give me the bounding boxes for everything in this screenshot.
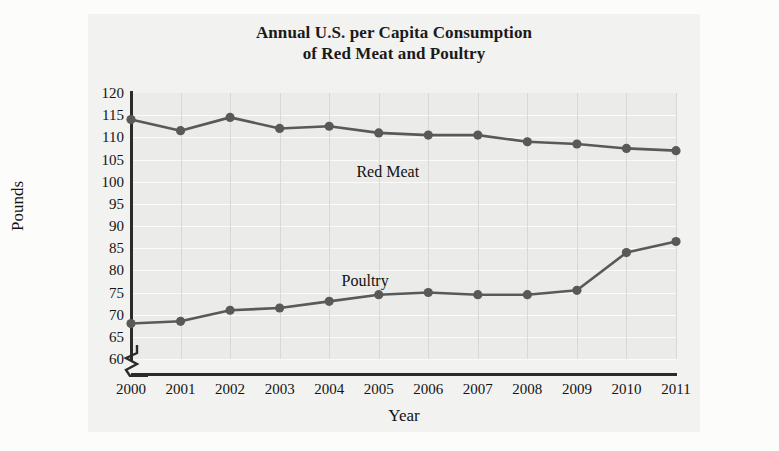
gridline-horizontal	[131, 137, 676, 138]
chart-page: Annual U.S. per Capita Consumption of Re…	[0, 0, 779, 451]
gridline-vertical	[181, 93, 182, 359]
gridline-horizontal	[131, 270, 676, 271]
gridline-horizontal	[131, 248, 676, 249]
x-tick-label: 2002	[203, 381, 257, 398]
gridline-vertical	[527, 93, 528, 359]
gridline-vertical	[379, 93, 380, 359]
gridline-horizontal	[131, 160, 676, 161]
gridline-horizontal	[131, 293, 676, 294]
gridline-horizontal	[131, 115, 676, 116]
gridline-vertical	[230, 93, 231, 359]
gridline-horizontal	[131, 337, 676, 338]
y-tick-label: 80	[84, 263, 124, 277]
gridline-horizontal	[131, 204, 676, 205]
x-tick-label: 2005	[352, 381, 406, 398]
gridline-horizontal	[131, 182, 676, 183]
y-axis-title: Pounds	[8, 146, 28, 266]
y-tick-label: 65	[84, 330, 124, 344]
chart-title: Annual U.S. per Capita Consumption of Re…	[88, 22, 700, 64]
x-tick-label: 2000	[104, 381, 158, 398]
gridline-vertical	[577, 93, 578, 359]
series-label-poultry: Poultry	[342, 272, 389, 290]
y-tick-label: 85	[84, 241, 124, 255]
gridline-horizontal	[131, 359, 676, 360]
chart-title-line2: of Red Meat and Poultry	[88, 43, 700, 64]
x-tick-label: 2009	[550, 381, 604, 398]
x-tick-label: 2007	[451, 381, 505, 398]
gridline-horizontal	[131, 315, 676, 316]
gridline-horizontal	[131, 226, 676, 227]
x-tick-label: 2008	[500, 381, 554, 398]
x-tick-label: 2010	[599, 381, 653, 398]
series-label-red-meat: Red Meat	[356, 163, 419, 181]
gridline-vertical	[428, 93, 429, 359]
y-tick-label: 115	[84, 108, 124, 122]
y-tick-label: 100	[84, 175, 124, 189]
x-tick-labels: 2000200120022003200420052006200720082009…	[0, 381, 779, 407]
gridline-vertical	[280, 93, 281, 359]
gridline-vertical	[478, 93, 479, 359]
y-tick-label: 90	[84, 219, 124, 233]
x-tick-label: 2004	[302, 381, 356, 398]
gridline-vertical	[676, 93, 677, 359]
x-axis-line	[131, 373, 677, 376]
gridline-vertical	[329, 93, 330, 359]
y-tick-label: 105	[84, 153, 124, 167]
y-tick-label: 95	[84, 197, 124, 211]
chart-title-line1: Annual U.S. per Capita Consumption	[88, 22, 700, 43]
y-tick-label: 70	[84, 308, 124, 322]
y-tick-label: 110	[84, 130, 124, 144]
y-axis-line	[130, 91, 133, 361]
y-tick-label: 75	[84, 286, 124, 300]
gridline-vertical	[626, 93, 627, 359]
y-tick-label: 120	[84, 86, 124, 100]
x-tick-label: 2003	[253, 381, 307, 398]
y-tick-label: 60	[84, 352, 124, 366]
x-tick-label: 2011	[649, 381, 703, 398]
x-axis-title: Year	[131, 406, 677, 426]
x-tick-label: 2001	[154, 381, 208, 398]
x-tick-label: 2006	[401, 381, 455, 398]
plot-area	[131, 93, 676, 359]
